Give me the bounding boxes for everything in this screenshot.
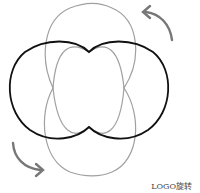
- logo-shapes: [0, 0, 200, 193]
- gray-vertical-shape: [45, 4, 135, 89]
- rotate-arrow-bottom-left-icon: [13, 143, 43, 176]
- rotate-arrow-top-right-icon: [143, 6, 172, 40]
- gray-vertical-shape-bottom: [44, 88, 135, 176]
- logo-rotation-diagram: LOGO旋转: [0, 0, 200, 193]
- caption: LOGO旋转: [151, 180, 192, 191]
- black-horizontal-shape: [10, 42, 168, 139]
